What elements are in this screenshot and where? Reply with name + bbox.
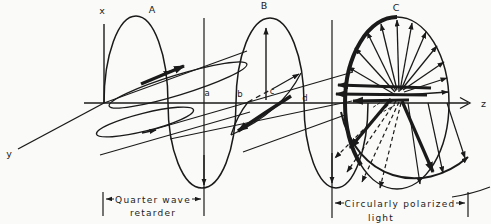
section-label-b: B bbox=[261, 0, 268, 11]
point-label-c: c bbox=[270, 86, 275, 96]
loop-a-upper bbox=[106, 54, 250, 115]
diagonal-3 bbox=[170, 101, 352, 139]
vertical-wave bbox=[104, 16, 368, 188]
retarder-label-line2: retarder bbox=[130, 208, 176, 218]
z-axis-label: z bbox=[481, 98, 486, 109]
y-axis-label: y bbox=[6, 148, 12, 159]
e-vectors-bold-left bbox=[336, 85, 431, 101]
quarter-wave-retarder-figure: x y z A B C a b c d Quarter wave retarde… bbox=[0, 0, 491, 224]
e-vectors-bold-lower bbox=[350, 99, 433, 172]
section-label-c: C bbox=[393, 2, 400, 13]
point-label-d: d bbox=[302, 93, 307, 103]
x-axis-label: x bbox=[99, 5, 105, 16]
circular-label-line1: Circularly polarized bbox=[345, 199, 456, 209]
point-label-a: a bbox=[204, 88, 209, 98]
e-vectors-upper bbox=[348, 20, 448, 95]
helix-exit-arc bbox=[452, 187, 490, 197]
point-label-b: b bbox=[237, 89, 242, 99]
diagonal-5 bbox=[100, 112, 250, 155]
diagonal-1 bbox=[104, 51, 247, 103]
e-vectors-lower-right bbox=[408, 103, 465, 184]
retarder-label-line1: Quarter wave bbox=[115, 195, 191, 205]
section-label-a: A bbox=[149, 4, 156, 15]
helix-bottom-sweep bbox=[341, 112, 468, 178]
y-axis bbox=[18, 103, 104, 149]
reference-lines bbox=[103, 18, 468, 218]
optics-diagram: x y z A B C a b c d Quarter wave retarde… bbox=[0, 0, 491, 224]
circular-label-line2: light bbox=[368, 213, 394, 223]
circular-polarization-helix bbox=[335, 17, 490, 197]
loop-b-tip-arrow bbox=[276, 74, 299, 87]
horizontal-wave-loops bbox=[94, 54, 301, 142]
